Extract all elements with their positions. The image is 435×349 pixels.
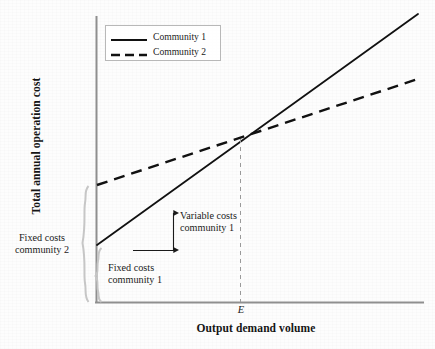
annotation-line-2: community 1 bbox=[108, 274, 198, 286]
annotation-fixed-costs-community-1: Fixed costs community 1 bbox=[108, 262, 198, 286]
annotation-variable-costs-community-1: Variable costs community 1 bbox=[180, 210, 275, 234]
legend-item-community-1: Community 1 bbox=[111, 28, 206, 44]
legend-swatch-solid-line-icon bbox=[111, 31, 147, 41]
annotation-line-1: Variable costs bbox=[180, 210, 275, 222]
annotation-line-1: Fixed costs bbox=[108, 262, 198, 274]
legend-swatch-dashed-line-icon bbox=[111, 46, 147, 56]
y-axis-title: Total annual operation cost bbox=[30, 46, 42, 246]
annotation-line-2: community 1 bbox=[180, 222, 275, 234]
series-line-community-2 bbox=[97, 78, 421, 185]
annotation-line-2: community 2 bbox=[2, 244, 82, 256]
x-axis-title: Output demand volume bbox=[96, 322, 416, 334]
annotation-line-1: Fixed costs bbox=[2, 232, 82, 244]
legend-item-community-2: Community 2 bbox=[111, 43, 206, 59]
legend-label-community-1: Community 1 bbox=[153, 31, 206, 42]
chart-legend: Community 1 Community 2 bbox=[105, 25, 221, 61]
brace-fixed-costs-community-2 bbox=[83, 186, 89, 302]
legend-label-community-2: Community 2 bbox=[153, 46, 206, 57]
chart-figure: Community 1 Community 2 Total annual ope… bbox=[0, 0, 435, 349]
breakeven-point-label: E bbox=[232, 304, 250, 315]
annotation-fixed-costs-community-2: Fixed costs community 2 bbox=[2, 232, 82, 256]
